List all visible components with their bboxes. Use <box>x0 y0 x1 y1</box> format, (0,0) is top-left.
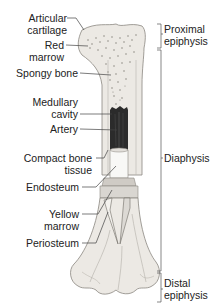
long-bone-diagram: Articular cartilage Red marrow Spongy bo… <box>0 0 224 306</box>
label-yellow-marrow: Yellow marrow <box>44 208 79 232</box>
label-line: Endosteum <box>26 181 79 193</box>
label-line: marrow <box>29 51 64 63</box>
compact-bone-cylinder <box>110 150 128 178</box>
label-line: epiphysis <box>164 35 208 47</box>
label-periosteum: Periosteum <box>26 237 79 249</box>
label-proximal-epiphysis: Proximal epiphysis <box>164 23 208 47</box>
label-line: Artery <box>50 123 78 135</box>
label-spongy-bone: Spongy bone <box>16 67 78 79</box>
label-line: Compact bone <box>24 152 92 164</box>
label-artery: Artery <box>50 123 78 135</box>
label-line: cartilage <box>27 24 67 36</box>
label-line: marrow <box>44 220 79 232</box>
label-diaphysis: Diaphysis <box>164 152 210 164</box>
label-line: Diaphysis <box>164 152 210 164</box>
label-line: Articular <box>27 12 67 24</box>
distal-epiphysis-outline <box>71 198 160 294</box>
label-distal-epiphysis: Distal epiphysis <box>164 277 208 301</box>
label-medullary-cavity: Medullary cavity <box>32 96 78 120</box>
region-brackets <box>157 24 163 302</box>
label-line: epiphysis <box>164 289 208 301</box>
label-line: cavity <box>32 108 78 120</box>
label-endosteum: Endosteum <box>26 181 79 193</box>
label-line: Periosteum <box>26 237 79 249</box>
label-line: Red <box>29 39 64 51</box>
endosteum-layer <box>102 178 136 186</box>
label-line: Proximal <box>164 23 208 35</box>
label-line: tissue <box>24 164 92 176</box>
label-line: Medullary <box>32 96 78 108</box>
label-articular-cartilage: Articular cartilage <box>27 12 67 36</box>
label-line: Distal <box>164 277 208 289</box>
label-red-marrow: Red marrow <box>29 39 64 63</box>
label-line: Spongy bone <box>16 67 78 79</box>
label-compact-bone-tissue: Compact bone tissue <box>24 152 92 176</box>
label-line: Yellow <box>44 208 79 220</box>
